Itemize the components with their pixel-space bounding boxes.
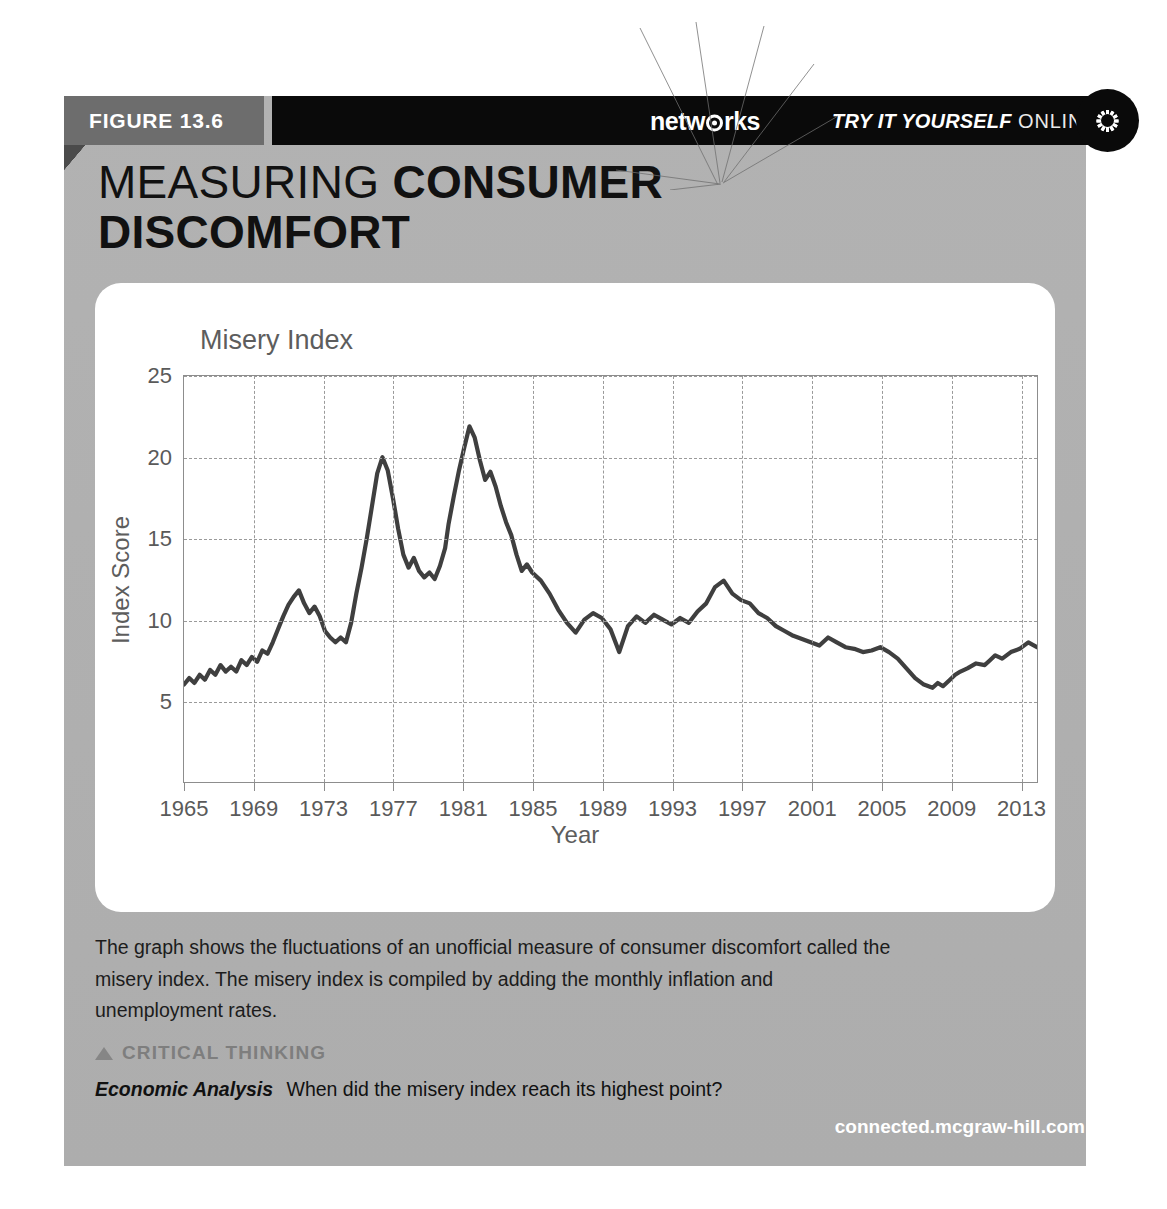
chart: Misery Index Index Score Year 5101520251… (95, 283, 1055, 912)
chart-y-tick-label: 5 (160, 689, 172, 715)
figure-title-light: MEASURING (98, 156, 392, 208)
chart-gridline-vertical (952, 376, 953, 782)
chart-x-tick-label: 1981 (439, 796, 488, 822)
chart-gridline-horizontal (184, 702, 1037, 703)
chart-x-tick-label: 1969 (229, 796, 278, 822)
chart-gridline-vertical (463, 376, 464, 782)
chart-line-series (184, 376, 1037, 782)
chart-x-tick-label: 2009 (927, 796, 976, 822)
chart-gridline-vertical (324, 376, 325, 782)
chart-y-tick-label: 10 (148, 608, 172, 634)
figure-page: FIGURE 13.6 netw rks TRY IT YOURSELF ONL… (0, 0, 1167, 1209)
chart-gridline-vertical (254, 376, 255, 782)
chart-gridline-horizontal (184, 621, 1037, 622)
chart-x-tick-label: 1993 (648, 796, 697, 822)
question-text: When did the misery index reach its high… (287, 1078, 723, 1100)
critical-thinking-question: Economic Analysis When did the misery in… (95, 1078, 722, 1101)
chart-gridline-vertical (882, 376, 883, 782)
networks-banner: netw rks TRY IT YOURSELF ONLINE (272, 96, 1110, 145)
chart-x-tick-mark (393, 782, 394, 791)
chart-x-tick-label: 2013 (997, 796, 1046, 822)
chart-plot-area: 5101520251965196919731977198119851989199… (183, 375, 1038, 783)
figure-tab-fold (64, 145, 86, 171)
chart-x-tick-mark (673, 782, 674, 791)
networks-logo-o-icon (706, 114, 723, 131)
chart-x-tick-mark (184, 782, 185, 791)
figure-caption: The graph shows the fluctuations of an u… (95, 932, 895, 1027)
networks-logo-pre: netw (650, 106, 705, 135)
chart-x-tick-mark (882, 782, 883, 791)
chart-x-tick-label: 2001 (788, 796, 837, 822)
chart-x-tick-label: 1977 (369, 796, 418, 822)
chart-gridline-vertical (393, 376, 394, 782)
networks-logo-post: rks (724, 106, 760, 135)
chart-x-tick-label: 1973 (299, 796, 348, 822)
chart-x-tick-mark (812, 782, 813, 791)
chart-x-tick-mark (952, 782, 953, 791)
chart-x-tick-mark (533, 782, 534, 791)
starburst-hub (1101, 114, 1114, 127)
chart-gridline-vertical (742, 376, 743, 782)
chart-x-tick-label: 1985 (508, 796, 557, 822)
chart-title: Misery Index (200, 325, 353, 356)
critical-thinking-label: CRITICAL THINKING (122, 1042, 326, 1064)
chart-series-line (184, 426, 1037, 687)
chart-x-axis-label: Year (95, 821, 1055, 849)
chart-y-tick-label: 20 (148, 445, 172, 471)
chart-x-tick-mark (1022, 782, 1023, 791)
starburst-icon[interactable] (1076, 89, 1139, 152)
figure-number-tab: FIGURE 13.6 (64, 96, 264, 145)
banner-tagline: TRY IT YOURSELF ONLINE (832, 109, 1097, 132)
chart-card: Misery Index Index Score Year 5101520251… (95, 283, 1055, 912)
chart-x-tick-mark (742, 782, 743, 791)
networks-logo: netw rks (650, 106, 760, 135)
chart-gridline-vertical (812, 376, 813, 782)
footer-url[interactable]: connected.mcgraw-hill.com (835, 1116, 1085, 1138)
chart-gridline-horizontal (184, 539, 1037, 540)
chart-gridline-vertical (1022, 376, 1023, 782)
chart-x-tick-mark (603, 782, 604, 791)
tagline-emphasis: TRY IT YOURSELF (832, 109, 1012, 131)
chart-gridline-vertical (673, 376, 674, 782)
chart-y-tick-label: 25 (148, 363, 172, 389)
chart-x-tick-label: 1997 (718, 796, 767, 822)
triangle-icon (95, 1047, 113, 1060)
chart-gridline-horizontal (184, 458, 1037, 459)
chart-x-tick-mark (463, 782, 464, 791)
chart-x-tick-mark (324, 782, 325, 791)
chart-x-tick-label: 1965 (160, 796, 209, 822)
chart-x-tick-mark (254, 782, 255, 791)
chart-x-tick-label: 1989 (578, 796, 627, 822)
chart-y-tick-label: 15 (148, 526, 172, 552)
critical-thinking-heading: CRITICAL THINKING (95, 1042, 326, 1064)
chart-gridline-horizontal (184, 376, 1037, 377)
question-label: Economic Analysis (95, 1078, 273, 1100)
figure-number-label: FIGURE 13.6 (89, 109, 224, 133)
chart-gridline-vertical (603, 376, 604, 782)
chart-x-tick-label: 2005 (857, 796, 906, 822)
figure-title: MEASURING CONSUMER DISCOMFORT (98, 158, 858, 257)
chart-y-axis-label: Index Score (107, 480, 135, 680)
chart-gridline-vertical (533, 376, 534, 782)
